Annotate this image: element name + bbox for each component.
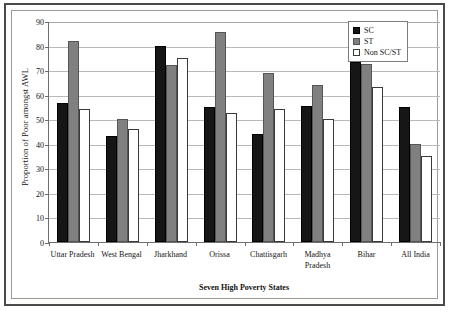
y-tick-label-50: 50	[36, 116, 44, 125]
bar[interactable]	[177, 58, 188, 242]
bar[interactable]	[117, 119, 128, 242]
legend-item-nonscst[interactable]: Non SC/ST	[353, 47, 401, 58]
y-tick-label-0: 0	[40, 239, 44, 248]
bar-group	[196, 22, 245, 242]
y-tick-label-70: 70	[36, 67, 44, 76]
bar-group	[293, 22, 342, 242]
bar[interactable]	[155, 46, 166, 242]
x-tick-label: West Bengal	[97, 246, 146, 280]
y-tick-label-30: 30	[36, 165, 44, 174]
y-tick-label-80: 80	[36, 42, 44, 51]
bar[interactable]	[312, 85, 323, 242]
bar-group	[245, 22, 294, 242]
y-axis-title-text: Proportion of Poor amongst AWL	[20, 68, 30, 186]
y-tick-label-90: 90	[36, 18, 44, 27]
x-tick-label: Madhya Pradesh	[293, 246, 342, 280]
bar[interactable]	[57, 103, 68, 242]
y-tick-label-10: 10	[36, 214, 44, 223]
legend-item-st[interactable]: ST	[353, 36, 401, 47]
bar-group	[147, 22, 196, 242]
x-tick-label: Chattisgarh	[244, 246, 293, 280]
y-axis-title: Proportion of Poor amongst AWL	[16, 11, 34, 243]
legend-label-nonscst: Non SC/ST	[364, 48, 401, 57]
bar[interactable]	[301, 106, 312, 242]
bar[interactable]	[323, 119, 334, 242]
bar[interactable]	[410, 144, 421, 242]
bar[interactable]	[68, 41, 79, 242]
y-tick-label-60: 60	[36, 91, 44, 100]
bar[interactable]	[399, 107, 410, 242]
bar[interactable]	[274, 109, 285, 242]
legend-item-sc[interactable]: SC	[353, 25, 401, 36]
bar-group	[49, 22, 98, 242]
x-tick-mark	[440, 242, 441, 246]
legend-swatch-nonscst	[353, 49, 360, 56]
legend-label-sc: SC	[364, 26, 374, 35]
x-tick-label: Jharkhand	[146, 246, 195, 280]
x-axis-labels: Uttar PradeshWest BengalJharkhandOrissaC…	[48, 246, 440, 280]
chart-area: Proportion of Poor amongst AWL 010203040…	[11, 10, 438, 299]
x-tick-label: All India	[391, 246, 440, 280]
y-tick-label-40: 40	[36, 140, 44, 149]
bar-group	[98, 22, 147, 242]
chart-legend: SCSTNon SC/ST	[348, 21, 408, 62]
bar[interactable]	[421, 156, 432, 242]
x-tick-label: Uttar Pradesh	[48, 246, 97, 280]
bar[interactable]	[372, 87, 383, 242]
x-tick-label: Bihar	[342, 246, 391, 280]
bar[interactable]	[263, 73, 274, 242]
bar[interactable]	[204, 107, 215, 242]
legend-label-st: ST	[364, 37, 373, 46]
bar[interactable]	[350, 62, 361, 242]
figure-frame: Proportion of Poor amongst AWL 010203040…	[4, 3, 445, 306]
legend-swatch-sc	[353, 27, 360, 34]
bar[interactable]	[79, 109, 90, 242]
y-tick-label-20: 20	[36, 189, 44, 198]
bar[interactable]	[215, 32, 226, 242]
x-axis-title: Seven High Poverty States	[48, 283, 440, 292]
bar[interactable]	[226, 113, 237, 242]
legend-swatch-st	[353, 38, 360, 45]
bar[interactable]	[128, 129, 139, 242]
bar[interactable]	[166, 65, 177, 242]
bar[interactable]	[106, 136, 117, 242]
x-tick-label: Orissa	[195, 246, 244, 280]
bar[interactable]	[252, 134, 263, 242]
bar[interactable]	[361, 64, 372, 242]
